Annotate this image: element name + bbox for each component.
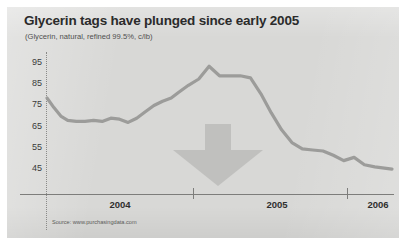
- data-series-line: [0, 0, 406, 244]
- plot-area: 95 85 75 65 55 45 2004 2005 2006 Source:…: [0, 0, 406, 244]
- chart-figure: Glycerin tags have plunged since early 2…: [0, 0, 406, 244]
- source-note: Source: www.purchasingdata.com: [52, 219, 137, 225]
- down-arrow-icon: [170, 124, 266, 188]
